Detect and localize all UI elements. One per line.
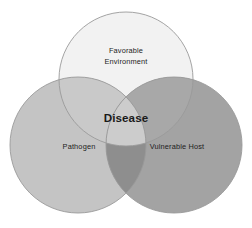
label-environment-line1: Favorable (109, 46, 143, 55)
disease-triangle-venn-diagram: Favorable Environment Pathogen Vulnerabl… (0, 0, 252, 228)
label-disease: Disease (104, 111, 149, 124)
label-host: Vulnerable Host (150, 142, 205, 151)
venn-diagram-canvas: Favorable Environment Pathogen Vulnerabl… (0, 0, 252, 228)
label-pathogen: Pathogen (63, 142, 96, 151)
label-environment-line2: Environment (104, 57, 147, 66)
